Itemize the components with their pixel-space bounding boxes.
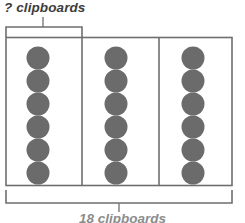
dot bbox=[27, 139, 50, 162]
dot bbox=[27, 47, 50, 70]
dot bbox=[182, 93, 205, 116]
bottom-brace-label: 18 clipboards bbox=[0, 211, 245, 223]
group-2-dots bbox=[105, 47, 128, 185]
figure-drawing bbox=[0, 0, 245, 223]
top-brace-bracket bbox=[6, 27, 82, 37]
dot bbox=[182, 139, 205, 162]
dot bbox=[27, 93, 50, 116]
dot bbox=[105, 70, 128, 93]
dot bbox=[27, 162, 50, 185]
dot bbox=[27, 116, 50, 139]
dot bbox=[27, 70, 50, 93]
dot bbox=[105, 116, 128, 139]
dot bbox=[105, 93, 128, 116]
dot bbox=[182, 162, 205, 185]
division-array-figure: ? clipboards bbox=[0, 0, 245, 223]
dot bbox=[105, 139, 128, 162]
group-3-dots bbox=[182, 47, 205, 185]
group-1-dots bbox=[27, 47, 50, 185]
dot bbox=[105, 162, 128, 185]
dot bbox=[182, 70, 205, 93]
dot bbox=[182, 47, 205, 70]
dot bbox=[105, 47, 128, 70]
bottom-brace-bracket bbox=[6, 190, 232, 203]
dot bbox=[182, 116, 205, 139]
